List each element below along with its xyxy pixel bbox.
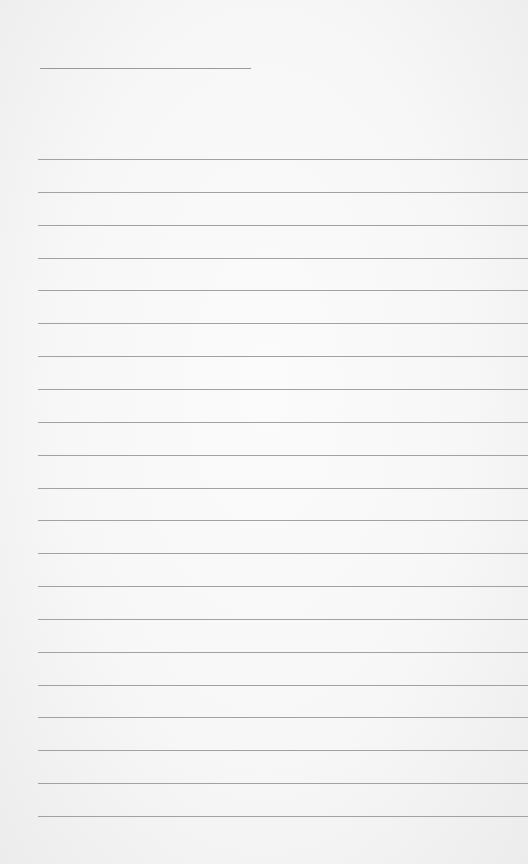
ruled-line bbox=[38, 356, 528, 357]
ruled-line bbox=[38, 717, 528, 718]
ruled-line bbox=[38, 685, 528, 686]
ruled-line bbox=[38, 225, 528, 226]
ruled-line bbox=[38, 389, 528, 390]
ruled-line bbox=[38, 816, 528, 817]
ruled-line bbox=[38, 192, 528, 193]
ruled-line bbox=[38, 783, 528, 784]
ruled-line bbox=[38, 455, 528, 456]
ruled-line bbox=[38, 586, 528, 587]
ruled-line bbox=[38, 619, 528, 620]
ruled-line bbox=[38, 520, 528, 521]
ruled-line bbox=[38, 290, 528, 291]
ruled-line bbox=[38, 553, 528, 554]
ruled-line bbox=[38, 323, 528, 324]
ruled-line bbox=[38, 652, 528, 653]
lined-paper bbox=[0, 0, 528, 864]
ruled-line bbox=[38, 159, 528, 160]
ruled-line bbox=[38, 488, 528, 489]
ruled-line bbox=[38, 422, 528, 423]
title-line bbox=[40, 68, 251, 69]
ruled-line bbox=[38, 750, 528, 751]
ruled-line bbox=[38, 258, 528, 259]
